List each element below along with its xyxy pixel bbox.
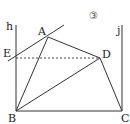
label-c: C [121,112,129,124]
label-e: E [3,47,11,60]
label-d: D [102,48,111,61]
segment-dc [100,58,122,111]
figure-number-label: ③ [89,10,98,21]
label-h: h [6,20,13,33]
segment-ad [48,37,100,58]
segment-bd [16,58,100,111]
segment-ab [16,37,48,111]
label-j: j [115,24,120,37]
geometry-diagram: ③ h j A E D B C [0,0,130,124]
label-a: A [37,25,47,38]
label-b: B [8,112,16,124]
